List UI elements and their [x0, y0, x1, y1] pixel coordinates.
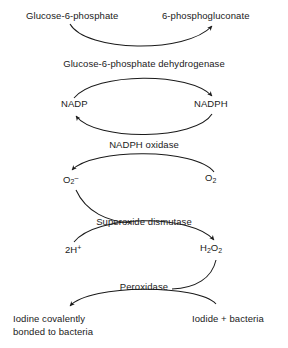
node-nadph: NADPH — [194, 98, 228, 110]
node-hydrogen-peroxide: H2O2 — [200, 242, 222, 257]
enzyme-nadph-oxidase: NADPH oxidase — [0, 139, 288, 151]
node-6-phosphogluconate: 6-phosphogluconate — [162, 10, 250, 22]
arrow-layer — [0, 0, 288, 348]
enzyme-superoxide-dismutase: Superoxide dismutase — [0, 216, 288, 228]
node-iodide-plus-bacteria: Iodide + bacteria — [192, 313, 264, 325]
peroxide-oxygen-subscript: 2 — [218, 247, 222, 254]
superoxide-charge: – — [74, 174, 78, 181]
node-iodine-bonded-to-bacteria: Iodine covalently bonded to bacteria — [13, 313, 93, 338]
enzyme-peroxidase: Peroxidase — [0, 281, 288, 293]
enzyme-glucose-6-phosphate-dehydrogenase: Glucose-6-phosphate dehydrogenase — [0, 58, 288, 70]
node-proton: 2H+ — [65, 242, 81, 256]
proton-charge: + — [77, 244, 81, 251]
peroxide-hydrogen: H — [200, 242, 207, 253]
pathway-diagram: Glucose-6-phosphate 6-phosphogluconate G… — [0, 0, 288, 348]
proton-element: 2H — [65, 244, 77, 255]
arrow-g6p-to-phosphogluconate — [70, 24, 212, 46]
node-glucose-6-phosphate: Glucose-6-phosphate — [26, 10, 118, 22]
node-oxygen: O2 — [205, 172, 216, 187]
arrow-oxygen-to-superoxide — [72, 154, 214, 172]
node-nadp: NADP — [61, 98, 88, 110]
arrow-nadp-to-nadph — [74, 78, 212, 98]
arrow-nadph-to-nadp — [76, 114, 212, 135]
oxygen-subscript: 2 — [212, 177, 216, 184]
node-superoxide-anion: O2– — [63, 172, 78, 188]
